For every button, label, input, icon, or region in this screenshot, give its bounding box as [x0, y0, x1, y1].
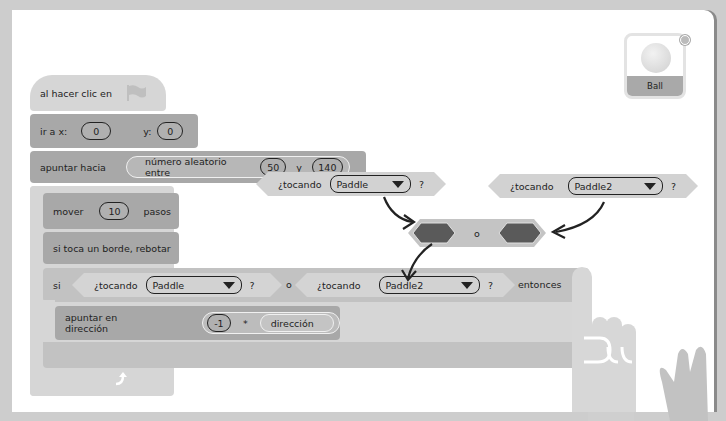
then-label: entonces	[518, 279, 561, 290]
dropdown-value: Paddle2	[386, 280, 424, 291]
hands-illustration	[570, 262, 720, 421]
touching-paddle2-condition[interactable]: ¿tocando Paddle2 ?	[295, 273, 515, 297]
multiply-sign: *	[243, 318, 248, 329]
dropdown-arrow-icon	[223, 282, 235, 289]
y-input[interactable]: 0	[157, 122, 183, 140]
dropdown-arrow-icon	[644, 183, 656, 190]
sprite-name-bar: Ball	[627, 76, 683, 96]
or-label: o	[474, 228, 480, 239]
sprite-name: Ball	[647, 81, 663, 91]
bounce-label: si toca un borde, rebotar	[53, 243, 171, 254]
close-icon[interactable]	[680, 35, 690, 45]
if-footer	[43, 342, 589, 368]
question-mark: ?	[250, 280, 255, 291]
move-steps-block[interactable]: mover 10 pasos	[43, 193, 179, 229]
dropdown-value: Paddle2	[575, 181, 613, 192]
floating-touching-paddle[interactable]: ¿tocando Paddle ?	[256, 172, 446, 196]
if-label: si	[53, 280, 61, 291]
when-flag-clicked-block[interactable]: al hacer clic en	[30, 75, 166, 111]
floating-paddle2-dropdown[interactable]: Paddle2	[568, 177, 663, 195]
touching-label: ¿tocando	[317, 280, 361, 291]
dropdown-arrow-icon	[392, 181, 404, 188]
or-label: o	[286, 279, 292, 290]
forever-inner-bar	[30, 186, 44, 396]
random-and-label: y	[296, 162, 302, 173]
loop-arrow-icon	[113, 371, 129, 387]
point-direction-label: apuntar en dirección	[65, 312, 162, 334]
random-label: número aleatorio entre	[145, 156, 248, 178]
floating-touching-paddle2[interactable]: ¿tocando Paddle2 ?	[488, 174, 698, 198]
touching-label: ¿tocando	[510, 181, 554, 192]
paddle-dropdown[interactable]: Paddle	[146, 276, 242, 294]
multiplier-input[interactable]: -1	[207, 314, 231, 332]
touching-label: ¿tocando	[94, 280, 138, 291]
dropdown-arrow-icon	[461, 282, 473, 289]
question-mark: ?	[488, 280, 493, 291]
x-input[interactable]: 0	[81, 122, 111, 140]
empty-boolean-slot-right[interactable]	[498, 222, 542, 244]
or-operator-block[interactable]: o	[408, 219, 546, 247]
green-flag-icon	[126, 84, 148, 102]
dropdown-value: Paddle	[337, 179, 369, 190]
move-label: mover	[53, 206, 83, 217]
bounce-on-edge-block[interactable]: si toca un borde, rebotar	[43, 232, 179, 264]
steps-input[interactable]: 10	[99, 202, 129, 220]
floating-paddle-dropdown[interactable]: Paddle	[330, 175, 411, 193]
paddle2-dropdown[interactable]: Paddle2	[379, 276, 480, 294]
go-to-xy-block[interactable]: ir a x: 0 y: 0	[30, 114, 198, 148]
dropdown-value: Paddle	[153, 280, 185, 291]
move-suffix: pasos	[143, 206, 171, 217]
hat-label: al hacer clic en	[40, 88, 112, 99]
point-in-direction-block[interactable]: apuntar en dirección -1 * dirección	[55, 306, 340, 340]
empty-boolean-slot-left[interactable]	[412, 222, 456, 244]
touching-paddle-condition[interactable]: ¿tocando Paddle ?	[72, 273, 282, 297]
ball-thumbnail	[641, 43, 671, 73]
goto-label: ir a x:	[40, 126, 67, 137]
sprite-tile-ball[interactable]: Ball	[624, 33, 686, 99]
question-mark: ?	[419, 179, 424, 190]
multiply-operator[interactable]: -1 * dirección	[202, 312, 340, 334]
touching-label: ¿tocando	[278, 179, 322, 190]
point-towards-label: apuntar hacia	[40, 162, 106, 173]
direction-reporter[interactable]: dirección	[260, 314, 334, 332]
y-label: y:	[143, 126, 151, 137]
question-mark: ?	[671, 181, 676, 192]
